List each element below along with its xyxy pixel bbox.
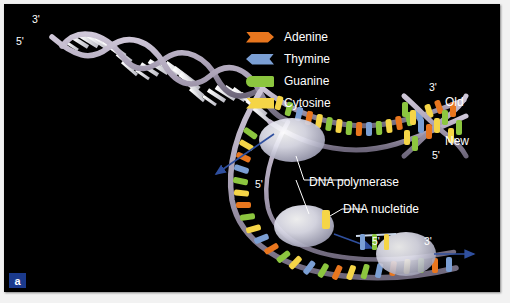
label-dna-nucleotide: DNA nucletide bbox=[343, 203, 419, 215]
thymine-swatch bbox=[246, 54, 274, 65]
label-parent-3prime: 3' bbox=[32, 14, 40, 25]
label-lagging-3prime: 3' bbox=[424, 236, 432, 247]
label-parent-5prime: 5' bbox=[16, 36, 24, 47]
legend-item: Cytosine bbox=[246, 94, 331, 112]
helix-rungs bbox=[66, 35, 270, 122]
panel-letter-a: a bbox=[9, 273, 26, 288]
dna-polymerase-upper bbox=[259, 118, 325, 162]
label-old-strand: Old bbox=[445, 96, 464, 108]
label-lagging-5prime: 5' bbox=[372, 236, 380, 247]
base-legend: Adenine Thymine Guanine Cytosine bbox=[246, 28, 331, 116]
legend-label-thymine: Thymine bbox=[284, 53, 330, 65]
guanine-swatch bbox=[246, 76, 274, 87]
label-fork-5prime: 5' bbox=[255, 179, 263, 190]
legend-label-adenine: Adenine bbox=[284, 31, 328, 43]
label-leading-5prime: 5' bbox=[432, 150, 440, 161]
label-leading-3prime: 3' bbox=[429, 82, 437, 93]
legend-item: Guanine bbox=[246, 72, 331, 90]
legend-label-cytosine: Cytosine bbox=[284, 97, 331, 109]
free-nucleotide bbox=[322, 210, 330, 229]
legend-label-guanine: Guanine bbox=[284, 75, 329, 87]
figure-container: 3' 5' 3' Old New 5' 5' DNA polymerase DN… bbox=[0, 0, 510, 303]
cytosine-swatch bbox=[246, 98, 274, 109]
legend-item: Thymine bbox=[246, 50, 331, 68]
dna-replication-diagram: 3' 5' 3' Old New 5' 5' DNA polymerase DN… bbox=[4, 4, 500, 292]
adenine-swatch bbox=[246, 32, 274, 43]
label-new-strand: New bbox=[445, 135, 469, 147]
label-dna-polymerase: DNA polymerase bbox=[309, 176, 399, 188]
legend-item: Adenine bbox=[246, 28, 331, 46]
